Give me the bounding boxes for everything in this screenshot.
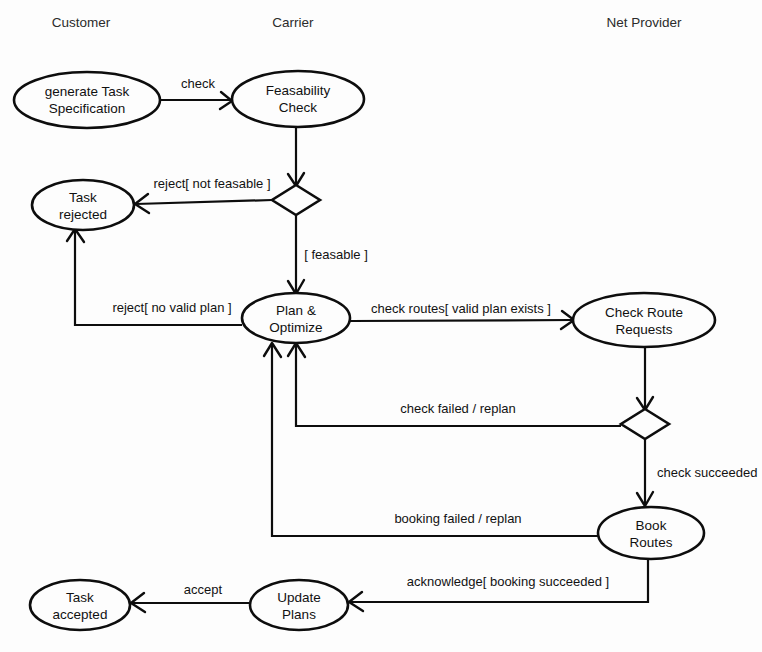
node-task-accepted-line1: Task [66, 590, 94, 605]
edge-requests-to-decision [637, 347, 653, 410]
edge-acknowledge: acknowledge[ booking succeeded ] [349, 559, 648, 611]
activity-diagram-canvas: Customer Carrier Net Provider check reje… [0, 0, 762, 652]
node-task-accepted-line2: accepted [53, 607, 108, 622]
edge-check-failed-replan: check failed / replan [288, 343, 621, 426]
node-book-routes-shape[interactable] [598, 507, 704, 559]
edge-reject-not-feasable-line [136, 200, 272, 204]
node-task-rejected-shape[interactable] [32, 180, 134, 230]
diagram-svg: Customer Carrier Net Provider check reje… [0, 0, 762, 652]
lane-header-customer: Customer [52, 15, 111, 30]
node-book-routes-line1: Book [636, 518, 667, 533]
node-task-accepted[interactable]: Task accepted [30, 580, 130, 630]
node-task-rejected[interactable]: Task rejected [32, 180, 134, 230]
node-book-routes-line2: Routes [630, 535, 673, 550]
edge-check-routes-label: check routes[ valid plan exists ] [371, 301, 551, 316]
edge-booking-failed-replan: booking failed / replan [264, 343, 599, 536]
edge-acknowledge-label: acknowledge[ booking succeeded ] [407, 574, 609, 589]
edge-booking-failed-replan-label: booking failed / replan [394, 511, 521, 526]
node-feasability-check-line1: Feasability [266, 83, 331, 98]
edge-accept-label: accept [184, 582, 223, 597]
edge-booking-failed-replan-line [272, 344, 599, 536]
edge-reject-not-feasable-label: reject[ not feasable ] [153, 176, 270, 191]
edge-feasable: [ feasable ] [288, 215, 368, 294]
lane-header-net-provider: Net Provider [606, 15, 682, 30]
nodes-layer: generate Task Specification Feasability … [14, 71, 715, 630]
edge-check-routes-line [350, 320, 572, 321]
decision-feasability[interactable] [272, 185, 320, 215]
edge-feasable-label: [ feasable ] [304, 247, 368, 262]
node-feasability-check[interactable]: Feasability Check [232, 71, 364, 127]
node-feasability-check-shape[interactable] [232, 71, 364, 127]
node-update-plans-line2: Plans [282, 607, 316, 622]
edge-check-failed-replan-label: check failed / replan [400, 401, 516, 416]
node-check-route-requests-line1: Check Route [605, 305, 683, 320]
edge-feasability-to-decision [288, 127, 304, 186]
edge-check-label: check [181, 76, 215, 91]
edge-check-succeeded-label: check succeeded [657, 465, 757, 480]
decision-route-check[interactable] [621, 409, 669, 439]
node-feasability-check-line2: Check [279, 100, 318, 115]
node-plan-and-optimize-shape[interactable] [242, 293, 350, 343]
node-generate-task-specification-line1: generate Task [45, 84, 130, 99]
edge-check-succeeded: check succeeded [637, 439, 757, 506]
node-book-routes[interactable]: Book Routes [598, 507, 704, 559]
node-check-route-requests-shape[interactable] [573, 293, 715, 347]
node-update-plans-shape[interactable] [250, 580, 348, 630]
edge-check: check [160, 76, 232, 109]
node-check-route-requests-line2: Requests [615, 322, 672, 337]
node-task-rejected-line2: rejected [59, 207, 107, 222]
edge-accept: accept [131, 582, 249, 612]
node-update-plans-line1: Update [277, 590, 321, 605]
node-generate-task-specification[interactable]: generate Task Specification [14, 72, 160, 128]
node-update-plans[interactable]: Update Plans [250, 580, 348, 630]
node-check-route-requests[interactable]: Check Route Requests [573, 293, 715, 347]
edge-reject-no-valid-plan-label: reject[ no valid plan ] [112, 300, 231, 315]
node-plan-and-optimize-line2: Optimize [269, 320, 322, 335]
node-plan-and-optimize-line1: Plan & [276, 303, 316, 318]
lane-headers: Customer Carrier Net Provider [52, 15, 682, 30]
node-task-accepted-shape[interactable] [30, 580, 130, 630]
edge-check-routes: check routes[ valid plan exists ] [350, 301, 574, 329]
edge-reject-not-feasable: reject[ not feasable ] [135, 176, 272, 213]
lane-header-carrier: Carrier [272, 15, 314, 30]
node-plan-and-optimize[interactable]: Plan & Optimize [242, 293, 350, 343]
edge-reject-no-valid-plan: reject[ no valid plan ] [67, 229, 242, 325]
node-generate-task-specification-shape[interactable] [14, 72, 160, 128]
node-generate-task-specification-line2: Specification [49, 101, 126, 116]
node-task-rejected-line1: Task [69, 190, 97, 205]
